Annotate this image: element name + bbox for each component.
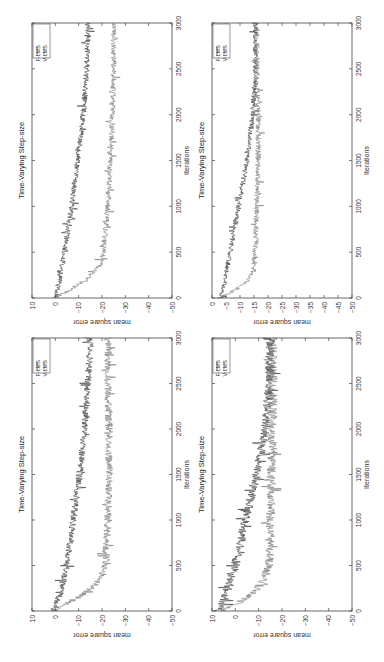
- y-tick-label: 0: [209, 302, 216, 306]
- y-axis-label: mean square error: [253, 318, 311, 326]
- series-line-f-lms: [51, 338, 94, 611]
- legend-entry-f-lms: F-LMS: [215, 45, 221, 62]
- y-axis-label: mean square error: [73, 631, 131, 639]
- y-tick-label: 0: [232, 615, 239, 619]
- y-tick-label: 0: [52, 302, 59, 306]
- y-tick-label: −10: [255, 615, 262, 626]
- chart-top-left: Time-Varying Step-size 100−10−20−30−40−5…: [0, 0, 192, 331]
- y-tick-label: 0: [52, 615, 59, 619]
- x-tick-label: 1000: [175, 199, 182, 214]
- x-tick-label: 1500: [355, 467, 362, 482]
- y-tick-label: −10: [237, 302, 244, 313]
- x-tick-label: 3000: [355, 15, 362, 30]
- legend-entry-v-lms: V-LMS: [222, 45, 228, 62]
- x-tick-label: 2000: [355, 421, 362, 436]
- y-tick-label: −30: [122, 615, 129, 626]
- y-tick-label: −30: [302, 615, 309, 626]
- y-tick-label: −40: [145, 302, 152, 313]
- y-tick-label: 10: [29, 302, 36, 310]
- x-tick-label: 1000: [175, 512, 182, 527]
- x-tick-label: 2500: [175, 61, 182, 76]
- legend: F-LMSV-LMS: [33, 24, 50, 62]
- x-tick-label: 3000: [175, 331, 182, 345]
- y-tick-label: −35: [307, 302, 314, 313]
- x-tick-label: 1500: [175, 153, 182, 168]
- chart-title: Time-Varying Step-size: [197, 122, 206, 199]
- chart-svg: 0−5−10−15−20−25−30−35−40−45−500500100015…: [192, 0, 384, 331]
- legend: F-LMSV-LMS: [213, 24, 230, 62]
- x-tick-label: 0: [355, 609, 362, 613]
- x-tick-label: 1000: [355, 512, 362, 527]
- chart-svg: 100−10−20−30−40−500500100015002000250030…: [192, 331, 384, 662]
- x-tick-label: 2000: [355, 107, 362, 122]
- y-tick-label: 10: [209, 615, 216, 623]
- series-line-f-lms: [54, 23, 95, 298]
- chart-svg: 100−10−20−30−40−500500100015002000250030…: [0, 0, 192, 331]
- series-line-f-lms: [215, 338, 281, 611]
- x-tick-label: 2000: [175, 107, 182, 122]
- series-line-f-lms: [217, 23, 259, 298]
- legend-entry-v-lms: V-LMS: [42, 45, 48, 62]
- legend-entry-f-lms: F-LMS: [215, 360, 221, 377]
- x-tick-label: 1500: [355, 153, 362, 168]
- x-tick-label: 500: [175, 246, 182, 257]
- y-axis-label: mean square error: [253, 631, 311, 639]
- y-tick-label: 10: [29, 615, 36, 623]
- chart-title: Time-Varying Step-size: [17, 122, 26, 199]
- y-tick-label: −30: [293, 302, 300, 313]
- chart-top-right: Time-Varying Step-size 0−5−10−15−20−25−3…: [192, 0, 384, 331]
- plot-area: [212, 23, 352, 298]
- legend-entry-v-lms: V-LMS: [42, 360, 48, 377]
- y-tick-label: −40: [325, 615, 332, 626]
- x-tick-label: 0: [175, 296, 182, 300]
- chart-svg: 100−10−20−30−40−500500100015002000250030…: [0, 331, 192, 662]
- y-tick-label: −20: [99, 615, 106, 626]
- y-tick-label: −25: [279, 302, 286, 313]
- y-tick-label: −10: [75, 302, 82, 313]
- y-tick-label: −50: [169, 615, 176, 626]
- x-axis-label: Iterations: [363, 146, 370, 175]
- y-tick-label: −45: [335, 302, 342, 313]
- y-tick-label: −5: [223, 302, 230, 310]
- x-tick-label: 500: [175, 560, 182, 571]
- y-tick-label: −20: [99, 302, 106, 313]
- y-tick-label: −15: [251, 302, 258, 313]
- chart-title: Time-Varying Step-size: [17, 436, 26, 513]
- x-tick-label: 3000: [175, 15, 182, 30]
- x-tick-label: 2500: [175, 376, 182, 391]
- y-tick-label: −20: [265, 302, 272, 313]
- x-tick-label: 3000: [355, 331, 362, 345]
- chart-title: Time-Varying Step-size: [197, 436, 206, 513]
- y-tick-label: −40: [321, 302, 328, 313]
- y-axis-label: mean square error: [73, 318, 131, 326]
- x-tick-label: 2500: [355, 376, 362, 391]
- legend-entry-f-lms: F-LMS: [35, 45, 41, 62]
- x-tick-label: 500: [355, 246, 362, 257]
- x-tick-label: 0: [355, 296, 362, 300]
- x-tick-label: 1000: [355, 199, 362, 214]
- x-tick-label: 1500: [175, 467, 182, 482]
- legend: F-LMSV-LMS: [33, 339, 50, 377]
- legend-entry-f-lms: F-LMS: [35, 360, 41, 377]
- legend-entry-v-lms: V-LMS: [222, 360, 228, 377]
- chart-bottom-left: Time-Varying Step-size 100−10−20−30−40−5…: [0, 331, 192, 662]
- y-tick-label: −50: [349, 615, 356, 626]
- x-tick-label: 0: [175, 609, 182, 613]
- x-tick-label: 2000: [175, 421, 182, 436]
- x-tick-label: 2500: [355, 61, 362, 76]
- x-tick-label: 500: [355, 560, 362, 571]
- chart-bottom-right: Time-Varying Step-size 100−10−20−30−40−5…: [192, 331, 384, 662]
- x-axis-label: Iterations: [183, 146, 190, 175]
- y-tick-label: −20: [279, 615, 286, 626]
- y-tick-label: −40: [145, 615, 152, 626]
- y-tick-label: −30: [122, 302, 129, 313]
- y-tick-label: −10: [75, 615, 82, 626]
- x-axis-label: Iterations: [363, 460, 370, 489]
- y-tick-label: −50: [349, 302, 356, 313]
- y-tick-label: −50: [169, 302, 176, 313]
- x-axis-label: Iterations: [183, 460, 190, 489]
- legend: F-LMSV-LMS: [213, 339, 230, 377]
